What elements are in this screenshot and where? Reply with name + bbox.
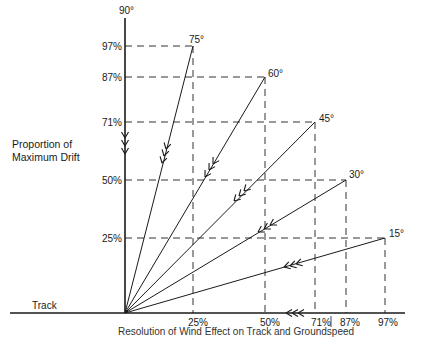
y-axis-title-line2: Maximum Drift (12, 151, 80, 164)
angle-label-15: 15° (389, 228, 404, 239)
arrow-icon-45 (232, 184, 251, 203)
y-tick-50: 50% (102, 175, 122, 186)
angle-label-90: 90° (119, 5, 134, 16)
angle-label-60: 60° (268, 68, 283, 79)
y-axis-title-line1: Proportion of (12, 138, 80, 151)
y-tick-25: 25% (102, 233, 122, 244)
angle-label-45: 45° (319, 113, 334, 124)
track-label: Track (32, 300, 58, 311)
x-tick-97: 97% (378, 317, 398, 328)
y-axis-title: Proportion of Maximum Drift (12, 138, 80, 164)
y-tick-87: 87% (102, 72, 122, 83)
figure-caption: Resolution of Wind Effect on Track and G… (118, 326, 354, 337)
y-tick-97: 97% (102, 41, 122, 52)
angle-label-30: 30° (349, 169, 364, 180)
arrow-icon-75 (159, 142, 171, 164)
dashed-guides (125, 46, 385, 313)
y-tick-71: 71% (102, 117, 122, 128)
angle-label-75: 75° (189, 34, 204, 45)
